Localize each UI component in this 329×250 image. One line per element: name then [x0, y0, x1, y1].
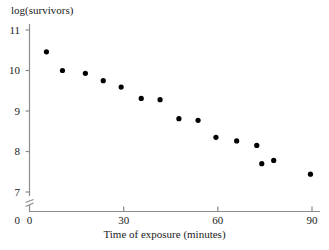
data-point — [271, 158, 276, 163]
data-point — [157, 97, 162, 102]
axes-group — [26, 24, 321, 212]
x-tick-label: 30 — [114, 215, 134, 226]
data-point — [60, 68, 65, 73]
data-point — [101, 78, 106, 83]
y-tick-label: 10 — [6, 65, 20, 76]
plot-canvas — [0, 0, 329, 250]
data-point — [119, 85, 124, 90]
y-tick-label: 7 — [6, 187, 20, 198]
y-tick-label: 8 — [6, 146, 20, 157]
x-tick-label: 90 — [302, 215, 322, 226]
data-point — [139, 96, 144, 101]
data-point — [195, 118, 200, 123]
data-point — [176, 116, 181, 121]
x-tick-marks — [124, 207, 312, 212]
data-point-group — [44, 49, 313, 177]
data-point — [254, 143, 259, 148]
x-axis-label: Time of exposure (minutes) — [0, 228, 329, 241]
scatter-plot-figure: log(survivors) 789101100306090 Time of e… — [0, 0, 329, 250]
x-tick-label: 0 — [20, 215, 40, 226]
data-point — [234, 138, 239, 143]
data-point — [83, 71, 88, 76]
y-tick-label: 11 — [6, 25, 20, 36]
y-tick-label: 9 — [6, 106, 20, 117]
y-axis-origin-label: 0 — [6, 215, 20, 226]
data-point — [259, 161, 264, 166]
data-point — [308, 172, 313, 177]
data-point — [44, 49, 49, 54]
x-tick-label: 60 — [208, 215, 228, 226]
data-point — [213, 135, 218, 140]
